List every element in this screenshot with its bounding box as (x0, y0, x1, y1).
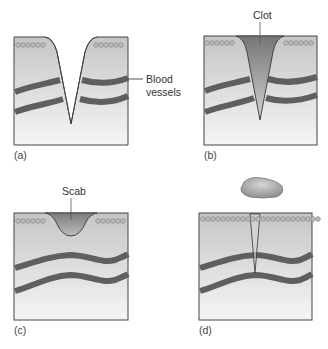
panel-c: Scab (c) (14, 185, 128, 336)
panel-b-label: (b) (204, 149, 217, 161)
panel-a-label: (a) (14, 149, 27, 161)
skin-tissue (14, 37, 128, 145)
clot-label: Clot (253, 9, 272, 21)
panel-b: Clot (b) (204, 9, 317, 161)
panel-a: Blood vessels (a) (14, 37, 181, 161)
fallen-scab (241, 178, 283, 199)
blood-vessels-label-line1: Blood (146, 73, 173, 85)
blood-vessels-label-line2: vessels (146, 86, 181, 98)
wound-healing-diagram: Blood vessels (a) Clot (b) Scab (c) (0, 0, 328, 349)
panel-c-label: (c) (14, 324, 26, 336)
panel-d: (d) (199, 178, 320, 337)
panel-d-label: (d) (199, 324, 212, 336)
scab-label: Scab (62, 185, 86, 197)
